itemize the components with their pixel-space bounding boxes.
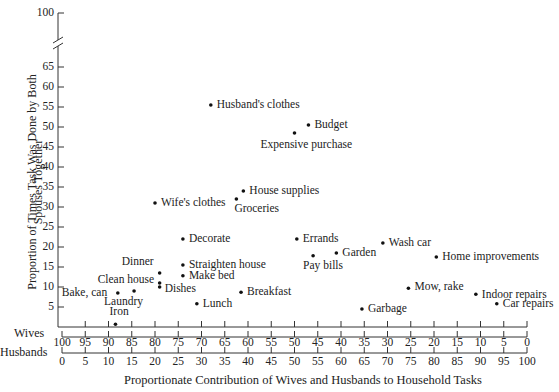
data-point	[295, 237, 299, 241]
point-label: Dishes	[165, 283, 196, 295]
husbands-tick-label: 30	[190, 356, 214, 368]
husbands-tick-label: 60	[329, 356, 353, 368]
husbands-tick-label: 80	[422, 356, 446, 368]
wives-tick-label: 50	[283, 337, 307, 349]
point-label: Wife's clothes	[161, 197, 226, 209]
point-label: Pay bills	[303, 260, 343, 272]
point-label: Errands	[303, 233, 339, 245]
wives-tick-label: 0	[515, 337, 539, 349]
wives-tick-label: 75	[166, 337, 190, 349]
wives-tick-label: 5	[492, 337, 516, 349]
y-tick-label: 65	[43, 61, 55, 73]
point-label: Budget	[314, 119, 347, 131]
point-label: Lunch	[203, 298, 232, 310]
point-label: Mow, rake	[414, 281, 463, 293]
husbands-tick-label: 85	[445, 356, 469, 368]
data-point	[181, 263, 185, 267]
data-point	[474, 292, 478, 296]
wives-tick-label: 90	[97, 337, 121, 349]
husbands-tick-label: 50	[283, 356, 307, 368]
data-point	[195, 302, 199, 306]
wives-tick-label: 65	[213, 337, 237, 349]
point-label: Iron	[109, 306, 128, 318]
husbands-tick-label: 25	[166, 356, 190, 368]
data-point	[181, 274, 185, 278]
data-point	[242, 189, 246, 193]
husbands-tick-label: 0	[50, 356, 74, 368]
wives-tick-label: 85	[120, 337, 144, 349]
data-point	[235, 197, 239, 201]
husbands-tick-label: 15	[120, 356, 144, 368]
wives-tick-label: 55	[259, 337, 283, 349]
y-tick-label: 10	[43, 281, 55, 293]
data-point	[360, 307, 364, 311]
data-point	[153, 201, 157, 205]
husbands-tick-label: 40	[236, 356, 260, 368]
x-axis-title: Proportionate Contribution of Wives and …	[124, 374, 482, 387]
data-point	[158, 271, 162, 275]
husbands-tick-label: 100	[515, 356, 539, 368]
husbands-tick-label: 55	[306, 356, 330, 368]
data-point	[158, 281, 162, 285]
data-point	[132, 289, 136, 293]
wives-tick-label: 95	[73, 337, 97, 349]
husbands-tick-label: 5	[73, 356, 97, 368]
wives-tick-label: 15	[445, 337, 469, 349]
data-point	[307, 123, 311, 127]
wives-tick-label: 100	[50, 337, 74, 349]
husbands-tick-label: 65	[352, 356, 376, 368]
husbands-axis-label: Husbands	[0, 346, 47, 358]
point-label: Clean house	[98, 274, 155, 286]
point-label: Wash car	[389, 237, 431, 249]
point-label: Bake, can	[62, 287, 107, 299]
wives-tick-label: 35	[352, 337, 376, 349]
wives-tick-label: 70	[190, 337, 214, 349]
y-tick-label: 20	[43, 241, 55, 253]
husbands-tick-label: 10	[97, 356, 121, 368]
husbands-tick-label: 75	[399, 356, 423, 368]
husbands-tick-label: 90	[469, 356, 493, 368]
y-tick-label: 15	[43, 261, 55, 273]
point-label: Home improvements	[442, 251, 539, 263]
data-point	[381, 241, 385, 245]
y-tick-label: 55	[43, 101, 55, 113]
data-point	[407, 286, 411, 290]
data-point	[335, 251, 339, 255]
point-label: Decorate	[189, 233, 231, 245]
husbands-tick-label: 70	[376, 356, 400, 368]
y-tick-label: 30	[43, 201, 55, 213]
husbands-tick-label: 35	[213, 356, 237, 368]
husbands-tick-label: 45	[259, 356, 283, 368]
wives-tick-label: 60	[236, 337, 260, 349]
y-tick-label: 25	[43, 221, 55, 233]
wives-tick-label: 20	[422, 337, 446, 349]
wives-tick-label: 45	[306, 337, 330, 349]
y-tick-label: 50	[43, 121, 55, 133]
y-tick-label: 100	[37, 7, 54, 19]
y-tick-label: 60	[43, 81, 55, 93]
y-tick-label: 35	[43, 181, 55, 193]
wives-tick-label: 30	[376, 337, 400, 349]
y-tick-label: 45	[43, 141, 55, 153]
data-point	[114, 322, 118, 326]
point-label: Expensive purchase	[261, 139, 353, 151]
y-tick-label: 40	[43, 161, 55, 173]
point-label: House supplies	[249, 185, 319, 197]
wives-tick-label: 80	[143, 337, 167, 349]
point-label: Groceries	[234, 203, 279, 215]
wives-axis-label: Wives	[14, 327, 44, 339]
point-label: Car repairs	[503, 298, 554, 310]
wives-tick-label: 25	[399, 337, 423, 349]
data-point	[181, 237, 185, 241]
data-point	[435, 255, 439, 259]
husbands-tick-label: 95	[492, 356, 516, 368]
point-label: Make bed	[189, 270, 235, 282]
point-label: Husband's clothes	[217, 99, 300, 111]
data-point	[239, 290, 243, 294]
wives-tick-label: 10	[469, 337, 493, 349]
husbands-tick-label: 20	[143, 356, 167, 368]
data-point	[158, 285, 162, 289]
data-point	[311, 254, 315, 258]
data-point	[209, 103, 213, 107]
point-label: Garbage	[368, 303, 407, 315]
